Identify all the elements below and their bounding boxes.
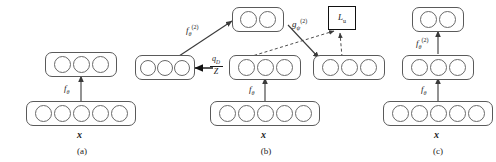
unit [238, 105, 255, 122]
unit-masked [174, 60, 190, 76]
unit [240, 11, 257, 28]
unit [111, 105, 128, 122]
loss-label: Lu [338, 13, 346, 24]
unit [73, 105, 90, 122]
panel-c-input-layer [383, 101, 493, 126]
panel-a-input-label: x [77, 130, 82, 140]
unit [92, 56, 109, 73]
panel-b-input-label: x [261, 130, 266, 140]
unit [54, 56, 71, 73]
panel-b-dashed-encoder-to-loss [249, 31, 334, 57]
unit [140, 60, 156, 76]
unit [257, 59, 274, 76]
unit [92, 105, 109, 122]
fraction-numerator: qD [207, 55, 225, 65]
panel-b-masked-layer [135, 55, 195, 80]
unit [449, 59, 466, 76]
panel-b-right-layer [313, 55, 385, 80]
panel-c-label-f-theta-2: fθ(2) [416, 37, 428, 50]
loss-box: Lu [328, 6, 356, 30]
panel-b-label-f-theta-2: fθ(2) [186, 24, 198, 37]
panel-c-hidden-layer [402, 55, 474, 80]
unit [341, 59, 358, 76]
unit [219, 105, 236, 122]
unit [360, 59, 377, 76]
fraction-denominator: Z [207, 68, 225, 76]
panel-a-hidden-layer [45, 52, 117, 77]
unit [449, 105, 466, 122]
panel-c-input-label: x [434, 130, 439, 140]
unit [322, 59, 339, 76]
panel-b-fraction-qd-z: qD Z [207, 55, 225, 77]
panel-c-label-f-theta: fθ [421, 85, 426, 96]
panel-c-output-layer [412, 7, 464, 32]
panel-a-label-f-theta: fθ [64, 84, 69, 95]
unit [411, 105, 428, 122]
unit [430, 105, 447, 122]
panel-b-input-layer [210, 101, 320, 126]
panel-b-top-layer [232, 7, 284, 32]
unit [276, 105, 293, 122]
unit [259, 11, 276, 28]
unit [73, 56, 90, 73]
unit [468, 105, 485, 122]
unit [295, 105, 312, 122]
unit [157, 60, 173, 76]
unit [238, 59, 255, 76]
unit [54, 105, 71, 122]
panel-c-caption: (c) [418, 147, 458, 156]
unit [392, 105, 409, 122]
unit [430, 59, 447, 76]
panel-b-encoder-layer [229, 55, 301, 80]
unit [35, 105, 52, 122]
figure-canvas: fθ x (a) Lu fθ(2) [0, 0, 496, 162]
panel-b-dashed-right-to-loss [340, 33, 342, 57]
panel-b-caption: (b) [246, 147, 286, 156]
unit [257, 105, 274, 122]
panel-b-label-f-theta: fθ [249, 85, 254, 96]
unit [420, 11, 437, 28]
unit [439, 11, 456, 28]
unit [411, 59, 428, 76]
panel-a-input-layer [26, 101, 136, 126]
panel-a-caption: (a) [62, 147, 102, 156]
unit [276, 59, 293, 76]
panel-b-label-g-psi-2: gψ(2) [292, 18, 307, 31]
